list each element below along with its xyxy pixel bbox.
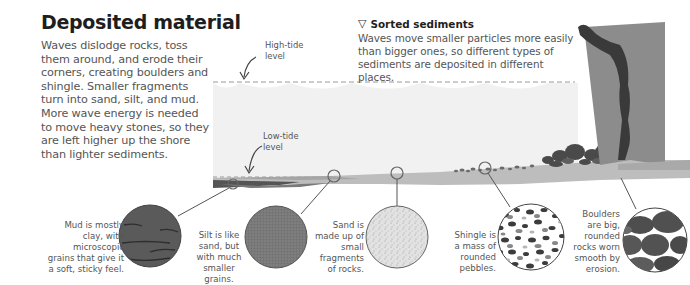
boulders-caption: Boulders are big, rounded rocks worn smo… — [560, 209, 620, 275]
high-tide-label: High-tide level — [265, 40, 303, 61]
sorted-sediments-heading: Sorted sediments — [370, 18, 473, 30]
page-title: Deposited material — [41, 11, 241, 33]
sorted-sediments-box: ▽ Sorted sediments Waves move smaller pa… — [358, 17, 578, 84]
low-tide-label: Low-tide level — [263, 131, 299, 152]
intro-paragraph: Waves dislodge rocks, toss them around, … — [41, 39, 211, 161]
mud-caption: Mud is mostly clay, with microscopic gra… — [30, 220, 124, 275]
sorted-sediments-body: Waves move smaller particles more easily… — [358, 32, 578, 84]
triangle-down-icon: ▽ — [358, 17, 366, 30]
silt-caption: Silt is like sand, but with much smaller… — [190, 230, 248, 285]
sand-caption: Sand is made up of small fragments of ro… — [308, 220, 364, 275]
shingle-caption: Shingle is a mass of rounded pebbles. — [440, 230, 496, 274]
